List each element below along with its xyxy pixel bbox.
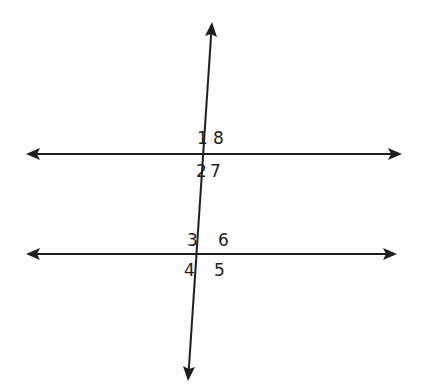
parallel-line-top <box>26 148 402 160</box>
angle-label-7: 7 <box>210 161 221 181</box>
angle-label-5: 5 <box>214 260 225 280</box>
parallel-line-bottom <box>26 248 397 260</box>
angle-label-6: 6 <box>218 230 229 250</box>
angle-label-3: 3 <box>187 230 198 250</box>
parallel-lines-transversal-diagram: 1 8 2 7 3 6 4 5 <box>0 0 425 389</box>
angle-label-2: 2 <box>196 161 207 181</box>
angle-label-4: 4 <box>184 260 195 280</box>
angle-label-8: 8 <box>213 128 224 148</box>
transversal-line <box>183 22 217 381</box>
angle-label-1: 1 <box>197 128 208 148</box>
